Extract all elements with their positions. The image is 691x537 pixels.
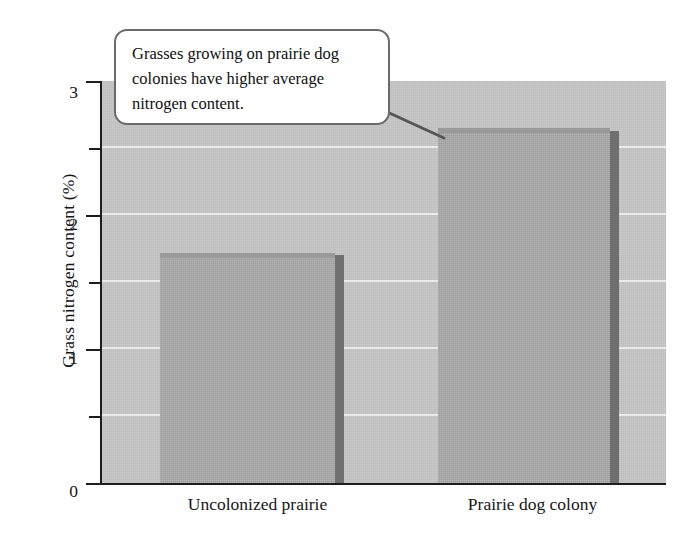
y-tick-mark-0 xyxy=(86,483,101,485)
y-tick-label-2-holder: 2 xyxy=(52,214,78,215)
callout-text: Grasses growing on prairie dog colonies … xyxy=(132,41,374,116)
chart-figure: Grass nitrogen content (%) 3 2 1 0 xyxy=(0,0,691,537)
y-tick-mark-1 xyxy=(86,349,101,351)
y-axis-title: Grass nitrogen content (%) xyxy=(58,71,79,471)
x-axis-label-uncolonized-prairie: Uncolonized prairie xyxy=(115,494,400,515)
y-axis-line xyxy=(100,81,102,485)
x-axis-line xyxy=(100,483,666,485)
y-axis-title-container: Grass nitrogen content (%) xyxy=(18,60,48,484)
y-tick-label-1: 1 xyxy=(54,348,78,369)
x-axis-label-prairie-dog-colony: Prairie dog colony xyxy=(390,494,675,515)
y-tick-label-0: 0 xyxy=(54,481,78,502)
y-tick-label-0-holder: 0 xyxy=(52,481,78,482)
y-tick-label-1-holder: 1 xyxy=(52,348,78,349)
y-tick-mark-2 xyxy=(86,215,101,217)
bar-prairie-dog-colony-side-face xyxy=(610,131,619,483)
bar-uncolonized-prairie[interactable] xyxy=(160,255,335,483)
y-tick-label-2: 2 xyxy=(54,214,78,235)
y-tick-label-3: 3 xyxy=(54,82,78,103)
bar-prairie-dog-colony-top-face xyxy=(438,128,610,133)
bar-prairie-dog-colony[interactable] xyxy=(438,131,610,483)
bar-uncolonized-prairie-side-face xyxy=(335,255,344,483)
bar-uncolonized-prairie-top-face xyxy=(160,253,335,258)
y-tick-label-3-holder: 3 xyxy=(52,82,78,83)
y-tick-mark-3 xyxy=(86,81,101,83)
callout-box[interactable]: Grasses growing on prairie dog colonies … xyxy=(114,29,390,125)
